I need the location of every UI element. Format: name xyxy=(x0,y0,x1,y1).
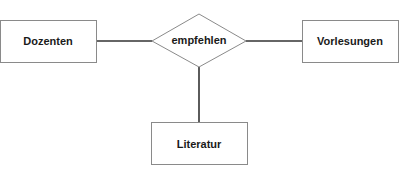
entity-dozenten-label: Dozenten xyxy=(23,35,73,47)
relationship-empfehlen: empfehlen xyxy=(152,14,246,67)
entity-literatur-label: Literatur xyxy=(177,138,222,150)
entity-literatur: Literatur xyxy=(152,123,248,165)
entity-vorlesungen: Vorlesungen xyxy=(303,21,399,63)
relationship-empfehlen-label: empfehlen xyxy=(171,34,226,46)
entity-vorlesungen-label: Vorlesungen xyxy=(317,35,383,47)
er-diagram: Dozenten empfehlen Vorlesungen Literatur xyxy=(0,0,412,177)
entity-dozenten: Dozenten xyxy=(1,21,97,63)
